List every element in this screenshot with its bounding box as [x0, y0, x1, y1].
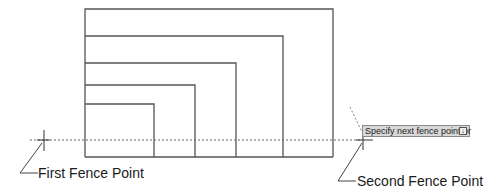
rectangle-5[interactable] [85, 104, 154, 157]
rectangle-2[interactable] [85, 36, 283, 157]
rectangle-4[interactable] [85, 85, 195, 157]
down-arrow-icon[interactable]: ↓ [459, 127, 467, 135]
rubber-band-line [350, 107, 362, 132]
nested-rectangles [85, 9, 333, 157]
command-prompt-tooltip: Specify next fence point or ↓ [362, 125, 470, 137]
tooltip-prompt-text: Specify next fence point or [365, 126, 471, 136]
first-fence-point-label: First Fence Point [38, 165, 144, 181]
second-fence-point-label: Second Fence Point [357, 173, 483, 189]
rectangle-3[interactable] [85, 63, 236, 157]
rectangle-1[interactable] [85, 9, 333, 157]
